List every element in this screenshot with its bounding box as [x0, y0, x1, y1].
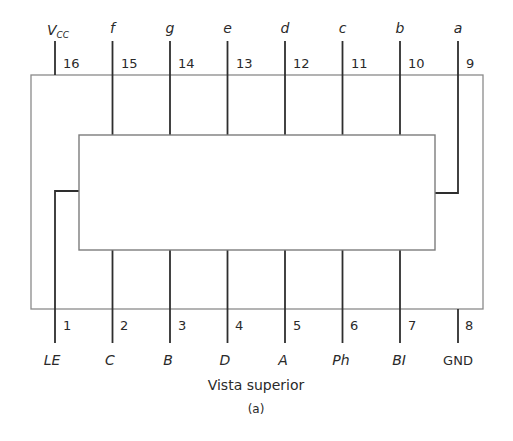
pin-4-signal: D [220, 352, 231, 368]
pin-12-number: 12 [293, 56, 310, 71]
pin-5-number: 5 [293, 318, 301, 333]
pin-9-number: 9 [466, 56, 474, 71]
pin-7-signal: BI [392, 352, 406, 368]
pin-12-signal: d [281, 20, 290, 36]
diagram-caption: Vista superior [208, 377, 305, 393]
pin-8-number: 8 [465, 318, 473, 333]
pin-11-number: 11 [351, 56, 368, 71]
pin-3-signal: B [163, 352, 173, 368]
pin-6-number: 6 [350, 318, 358, 333]
pin-6-signal: Ph [332, 352, 349, 368]
pin-9-signal: a [454, 20, 463, 36]
pin-2-number: 2 [120, 318, 128, 333]
pin-16-number: 16 [63, 56, 80, 71]
pin-13-number: 13 [236, 56, 253, 71]
ic-pinout-diagram: 16 15 14 13 12 11 10 9 VCC f g e d c b a… [0, 0, 513, 441]
pin-14-signal: g [166, 20, 175, 36]
pin-3-number: 3 [178, 318, 186, 333]
pin-1-number: 1 [63, 318, 71, 333]
pin-15-signal: f [110, 20, 117, 36]
pin-15-number: 15 [121, 56, 138, 71]
pin-8-signal: GND [443, 353, 473, 368]
pin-4-number: 4 [235, 318, 243, 333]
pin-10-number: 10 [408, 56, 425, 71]
pin-14-number: 14 [178, 56, 195, 71]
pin-16-signal: VCC [47, 22, 70, 40]
pin-11-signal: c [339, 20, 347, 36]
pin-7-number: 7 [408, 318, 416, 333]
pin-13-signal: e [223, 20, 232, 36]
pin-5-signal: A [277, 352, 288, 368]
pin-10-signal: b [396, 20, 405, 36]
pin-9-lead [435, 41, 458, 193]
pin-1-signal: LE [44, 352, 61, 368]
pin-2-signal: C [105, 352, 115, 368]
diagram-subcaption: (a) [248, 402, 265, 416]
inner-chip-block [79, 135, 435, 250]
